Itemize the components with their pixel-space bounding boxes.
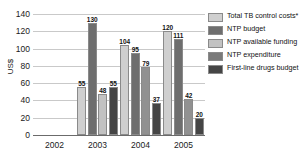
bar-value-label: 79 bbox=[142, 60, 149, 67]
bar-value-label: 37 bbox=[153, 96, 160, 103]
legend-label: NTP expenditure bbox=[227, 51, 281, 59]
y-axis-tick: 120 bbox=[6, 27, 30, 35]
x-axis-tick: 2004 bbox=[119, 140, 163, 150]
bar: 130 bbox=[88, 23, 97, 135]
legend-swatch-icon bbox=[208, 13, 223, 22]
legend-swatch-icon bbox=[208, 26, 223, 35]
y-axis-tick-labels: 020406080100120140 bbox=[6, 14, 30, 136]
bar-value-label: 55 bbox=[110, 80, 117, 87]
y-axis-tick: 0 bbox=[6, 131, 30, 139]
y-axis-tick: 60 bbox=[6, 79, 30, 87]
legend-swatch-icon bbox=[208, 65, 223, 74]
bar: 55 bbox=[77, 87, 86, 135]
bar-group-2004: 104957937 bbox=[119, 14, 162, 135]
legend-label: NTP budget bbox=[227, 25, 265, 33]
y-axis-tick: 140 bbox=[6, 10, 30, 18]
y-axis-tick: 100 bbox=[6, 45, 30, 53]
bar-value-label: 111 bbox=[173, 32, 183, 39]
bar-value-label: 55 bbox=[78, 80, 85, 87]
bar-value-label: 48 bbox=[99, 87, 106, 94]
bar: 120 bbox=[163, 31, 172, 135]
x-axis-tick: 2003 bbox=[76, 140, 120, 150]
legend-item[interactable]: NTP available funding bbox=[208, 38, 302, 48]
bar-value-label: 130 bbox=[87, 16, 98, 23]
x-axis-tick: 2005 bbox=[162, 140, 206, 150]
legend-label: First-line drugs budget bbox=[227, 64, 299, 72]
chart-legend: Total TB control costs*NTP budgetNTP ava… bbox=[208, 12, 302, 77]
plot-area: 5513048551049579371201114220 bbox=[33, 14, 205, 136]
legend-item[interactable]: First-line drugs budget bbox=[208, 64, 302, 74]
x-axis-tick: 2002 bbox=[33, 140, 77, 150]
bar-group-2002 bbox=[33, 14, 76, 135]
legend-swatch-icon bbox=[208, 39, 223, 48]
y-axis-tick: 20 bbox=[6, 114, 30, 122]
legend-item[interactable]: Total TB control costs* bbox=[208, 12, 302, 22]
y-axis-tick: 80 bbox=[6, 62, 30, 70]
x-axis-tick-labels: 2002200320042005 bbox=[33, 140, 205, 154]
y-axis-tick: 40 bbox=[6, 96, 30, 104]
bar-group-2003: 551304855 bbox=[76, 14, 119, 135]
bar-value-label: 20 bbox=[196, 111, 203, 118]
bar: 111 bbox=[174, 39, 183, 135]
legend-item[interactable]: NTP budget bbox=[208, 25, 302, 35]
legend-label: NTP available funding bbox=[227, 38, 297, 46]
legend-swatch-icon bbox=[208, 52, 223, 61]
bar: 95 bbox=[131, 53, 140, 135]
bar: 48 bbox=[98, 94, 107, 135]
bar-group-2005: 1201114220 bbox=[162, 14, 205, 135]
bar-value-label: 95 bbox=[132, 46, 139, 53]
bar: 37 bbox=[152, 103, 161, 135]
bar: 20 bbox=[195, 118, 204, 135]
bar: 79 bbox=[141, 67, 150, 135]
bar-value-label: 104 bbox=[119, 38, 130, 45]
legend-item[interactable]: NTP expenditure bbox=[208, 51, 302, 61]
bar: 104 bbox=[120, 45, 129, 135]
bar-chart: US$ 020406080100120140 55130485510495793… bbox=[0, 0, 302, 167]
bar-value-label: 42 bbox=[185, 92, 192, 99]
bar-value-label: 120 bbox=[162, 24, 173, 31]
x-axis-baseline bbox=[33, 135, 205, 136]
legend-label: Total TB control costs* bbox=[227, 12, 298, 20]
bar: 42 bbox=[184, 99, 193, 135]
bar: 55 bbox=[109, 87, 118, 135]
